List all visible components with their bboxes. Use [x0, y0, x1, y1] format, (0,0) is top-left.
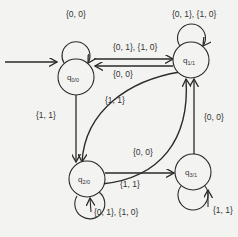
edge-label-q2-q3: {1, 1}	[120, 179, 140, 189]
edge-label-q2-q2: {0, 1}, {1, 0}	[94, 207, 139, 217]
edge-q0-q2: {1, 1}	[36, 95, 76, 162]
edge-label-q1-q2: {1, 1}	[105, 95, 125, 105]
edge-q1-q0: {0, 0}	[95, 66, 173, 79]
state-sub: 2/0	[82, 179, 90, 185]
edge-label-q0-q2: {1, 1}	[36, 110, 56, 120]
self-loop-q1: {0, 1}, {1, 0}	[172, 9, 217, 46]
edge-q0-q1: {0, 1}, {1, 0}	[94, 42, 173, 59]
edge-label-q0-q0: {0, 0}	[66, 9, 86, 19]
state-q1: q1/1	[173, 42, 209, 78]
self-loop-q0: {0, 0}	[62, 9, 90, 63]
edge-label-q3-q3: {1, 1}	[213, 205, 233, 215]
state-q0: q0/0	[58, 59, 94, 95]
edge-label-q3-q1: {0, 0}	[204, 112, 224, 122]
state-sub: 3/1	[189, 172, 197, 178]
state-q2: q2/0	[69, 161, 105, 197]
edge-label-q1-q0: {0, 0}	[113, 69, 133, 79]
state-sub: 0/0	[71, 77, 79, 83]
state-diagram: {0, 0} {0, 1}, {1, 0} {0, 1}, {1, 0} {1,…	[0, 0, 238, 237]
edge-label-q2-q1: {0, 0}	[133, 147, 153, 157]
edge-label-q0-q1: {0, 1}, {1, 0}	[113, 42, 158, 52]
edge-q1-q2: {1, 1}	[82, 72, 180, 162]
edge-q2-q3: {1, 1}	[105, 173, 174, 189]
state-q3: q3/1	[175, 154, 211, 190]
edge-q3-q1: {0, 0}	[194, 79, 224, 154]
edge-label-q1-q1: {0, 1}, {1, 0}	[172, 9, 217, 19]
state-sub: 1/1	[187, 60, 195, 66]
self-loop-q3: {1, 1}	[178, 186, 233, 215]
